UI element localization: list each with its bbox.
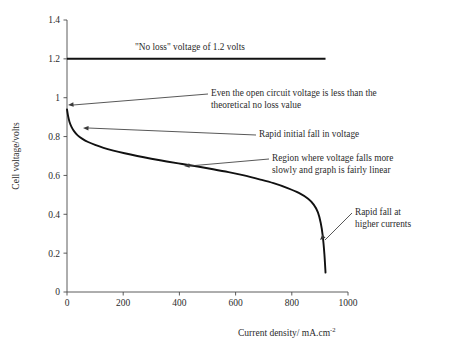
x-axis-title: Current density/ mA.cm-2 — [238, 326, 336, 338]
x-tick-labels: 02004006008001000 — [65, 298, 358, 308]
x-tick-label: 200 — [116, 298, 131, 308]
linear-region-note-line-1: Region where voltage falls more — [272, 153, 393, 165]
no-loss-note: "No loss" voltage of 1.2 volts — [135, 42, 245, 54]
y-tick-label: 0.8 — [48, 132, 60, 142]
x-tick-label: 600 — [228, 298, 243, 308]
x-tick-label: 800 — [285, 298, 300, 308]
y-tick-label: 1.2 — [48, 54, 60, 64]
rapid-initial-fall-note-arrowhead — [83, 126, 89, 131]
polarization-chart: 00.20.40.60.811.21.4 02004006008001000 C… — [0, 0, 449, 354]
linear-region-note: Region where voltage falls moreslowly an… — [272, 153, 393, 176]
linear-region-note-line-2: slowly and graph is fairly linear — [272, 165, 393, 177]
y-tick-label: 0.4 — [48, 210, 60, 220]
rapid-initial-fall-note: Rapid initial fall in voltage — [259, 129, 359, 141]
x-tick-label: 0 — [65, 298, 70, 308]
rapid-fall-high-current-note-leader — [325, 213, 352, 240]
rapid-fall-high-current-note-line-1: Rapid fall at — [355, 207, 411, 219]
linear-region-note-leader — [189, 159, 269, 166]
y-tick-label: 1.4 — [48, 15, 60, 25]
rapid-initial-fall-note-leader — [88, 128, 256, 135]
x-axis-title-superscript: -2 — [330, 326, 336, 333]
y-tick-label: 0.2 — [48, 249, 60, 259]
x-tick-label: 1000 — [339, 298, 358, 308]
y-tick-label: 1 — [55, 93, 60, 103]
y-tick-labels: 00.20.40.60.811.21.4 — [48, 15, 60, 297]
open-circuit-note-arrowhead — [68, 102, 74, 107]
rapid-initial-fall-note-line-1: Rapid initial fall in voltage — [259, 129, 359, 141]
y-axis-ticks — [64, 20, 68, 292]
x-axis-ticks — [67, 292, 348, 296]
y-axis-title: Cell voltage/volts — [11, 122, 21, 190]
x-axis-title-main: Current density/ mA.cm — [238, 328, 331, 338]
y-tick-label: 0.6 — [48, 171, 60, 181]
no-loss-note-line-1: "No loss" voltage of 1.2 volts — [135, 42, 245, 54]
rapid-fall-high-current-note-line-2: higher currents — [355, 219, 411, 231]
open-circuit-note-line-1: Even the open circuit voltage is less th… — [211, 88, 377, 100]
open-circuit-note-leader — [73, 94, 208, 105]
open-circuit-note: Even the open circuit voltage is less th… — [211, 88, 377, 111]
open-circuit-note-line-2: theoretical no loss value — [211, 100, 377, 112]
rapid-fall-high-current-note: Rapid fall athigher currents — [355, 207, 411, 230]
x-tick-label: 400 — [172, 298, 187, 308]
y-tick-label: 0 — [55, 287, 60, 297]
